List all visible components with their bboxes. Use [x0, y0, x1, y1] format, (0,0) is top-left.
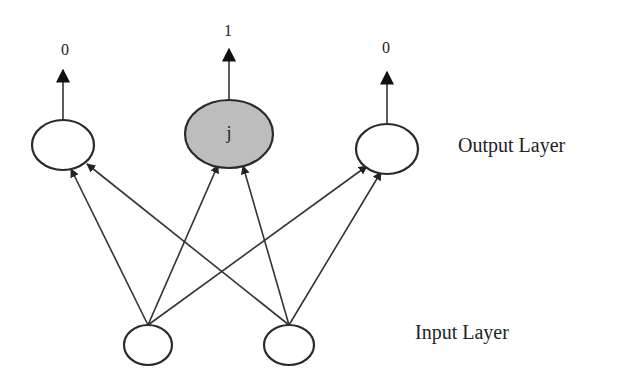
output-layer: j Output Layer	[32, 100, 566, 174]
input-node-right	[264, 325, 314, 365]
output-values: 0 1 0	[61, 22, 390, 58]
output-node-left	[32, 120, 94, 170]
neural-network-diagram: 0 1 0 j Output Layer Input Layer	[0, 0, 640, 380]
edge-in-right-to-out-right	[289, 172, 381, 325]
edge-in-left-to-out-left	[71, 169, 148, 325]
output-layer-label: Output Layer	[458, 134, 566, 157]
edges	[71, 164, 381, 325]
edge-in-left-to-out-j	[148, 165, 218, 325]
output-value-j: 1	[224, 22, 232, 39]
edge-in-right-to-out-j	[243, 166, 289, 325]
edge-in-left-to-out-right	[148, 166, 367, 325]
input-layer-label: Input Layer	[415, 321, 509, 344]
output-value-left: 0	[61, 41, 69, 58]
input-node-left	[124, 325, 172, 365]
output-node-right	[356, 124, 418, 174]
input-layer: Input Layer	[124, 321, 509, 365]
output-node-j-label: j	[225, 123, 231, 143]
output-value-right: 0	[382, 39, 390, 56]
